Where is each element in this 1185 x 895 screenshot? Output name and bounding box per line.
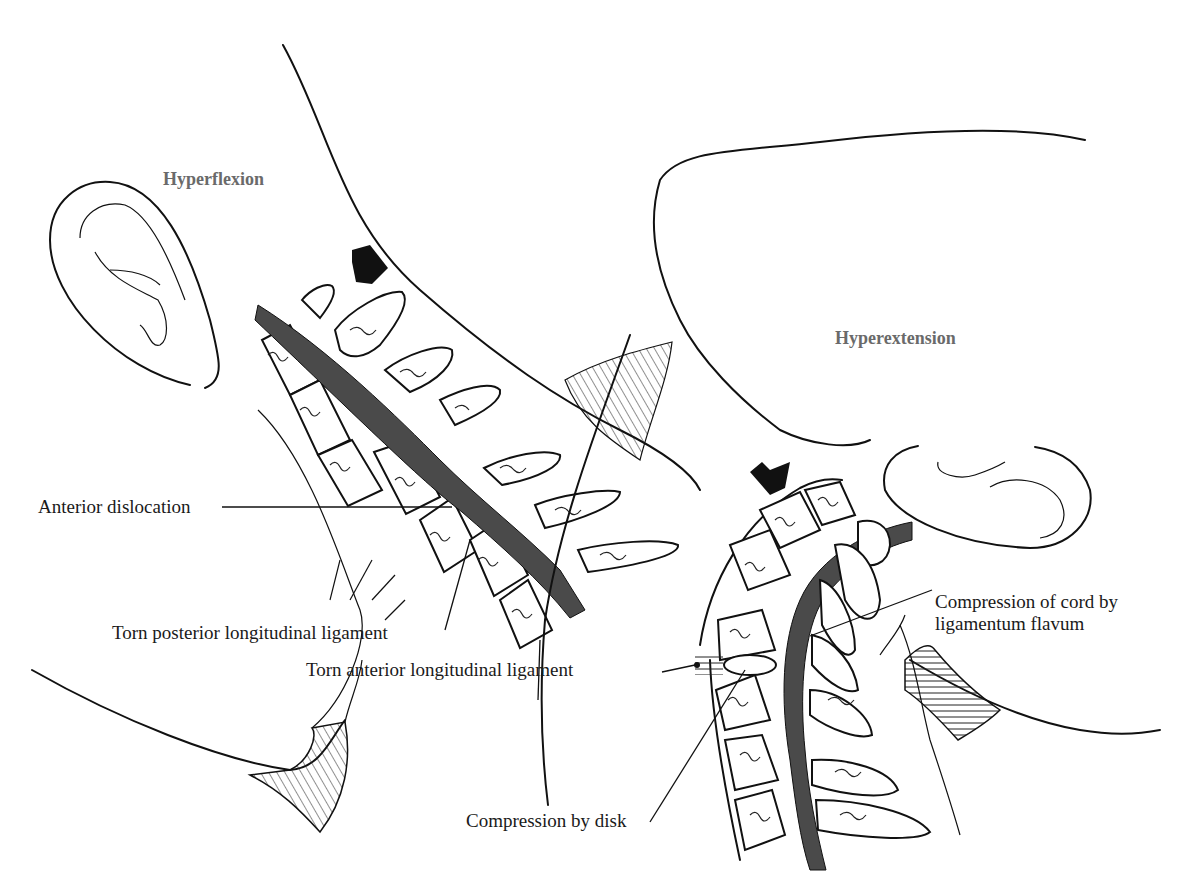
ear-right [884,446,1091,548]
label-torn-anterior-ligament: Torn anterior longitudinal ligament [306,660,573,681]
trachea-lines [330,560,405,620]
spinal-column-extension [695,479,930,870]
label-compression-by-disk: Compression by disk [466,811,626,832]
leader-torn-anterior [662,665,695,672]
head-outline-right [654,131,1085,445]
shoulder-hatch [250,722,348,832]
label-torn-posterior-ligament: Torn posterior longitudinal ligament [112,623,388,644]
illustration [0,0,1185,895]
panel-title-hyperextension: Hyperextension [835,329,956,349]
ear-left [50,182,219,388]
herniated-disk [724,655,776,675]
hyperflexion-figure [32,45,700,832]
neck-outline-left [32,670,345,770]
label-compression-cord-line2: ligamentum flavum [935,614,1084,635]
hyperextension-figure [542,131,1160,870]
force-arrow-icon-2 [750,462,790,495]
spinal-column-flexion [255,285,678,648]
panel-title-hyperflexion: Hyperflexion [163,170,264,190]
label-anterior-dislocation: Anterior dislocation [38,497,191,518]
neck-muscle-hatch [565,342,672,460]
label-compression-cord-line1: Compression of cord by [935,592,1118,613]
